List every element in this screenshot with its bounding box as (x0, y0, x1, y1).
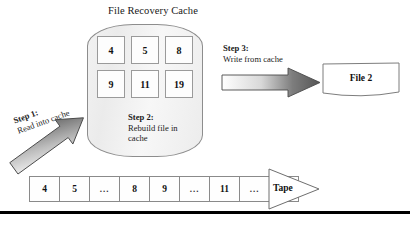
diagram-canvas: File Recovery Cache 4 5 8 9 11 19 Step 2… (0, 0, 410, 226)
cache-block: 19 (165, 70, 193, 98)
write-from-cache-arrow-icon (222, 68, 322, 98)
tape-cell: 11 (209, 176, 239, 202)
read-into-cache-arrow-icon (18, 112, 118, 174)
cache-block-grid: 4 5 8 9 11 19 (97, 36, 193, 98)
tape-cell: ... (89, 176, 119, 202)
tape-cell: 5 (59, 176, 89, 202)
tape-strip: 4 5 ... 8 9 ... 11 ... 19 (29, 176, 299, 202)
output-file-label: File 2 (322, 73, 400, 83)
tape-cell: ... (179, 176, 209, 202)
cache-block: 5 (131, 36, 159, 64)
step-3-body: Write from cache (223, 54, 323, 65)
cache-title: File Recovery Cache (93, 5, 213, 16)
cache-block: 4 (97, 36, 125, 64)
cache-block: 11 (131, 70, 159, 98)
output-file-document: File 2 (322, 62, 400, 98)
tape-cell: 4 (29, 176, 59, 202)
step-2-label: Step 2: Rebuild file in cache (128, 112, 194, 144)
tape-cell: 8 (119, 176, 149, 202)
tape-cell: ... (239, 176, 269, 202)
step-2-body-line-2: cache (128, 133, 194, 144)
tape-label: Tape (273, 183, 293, 193)
step-2-body-line-1: Rebuild file in (128, 123, 194, 134)
tape-cell: 9 (149, 176, 179, 202)
step-3-label: Step 3: Write from cache (223, 43, 323, 64)
step-3-title: Step 3: (223, 43, 323, 54)
tape-head-marker: Tape (268, 168, 320, 210)
cache-block: 8 (165, 36, 193, 64)
step-2-title: Step 2: (128, 112, 194, 123)
bottom-divider (0, 211, 410, 214)
cache-block: 9 (97, 70, 125, 98)
